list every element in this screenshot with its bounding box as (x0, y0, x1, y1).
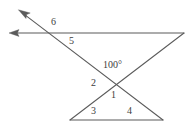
angle-label-1: 1 (111, 90, 116, 100)
angle-measure-label: 100° (103, 60, 122, 70)
angle-label-3: 3 (91, 106, 96, 116)
angle-label-4: 4 (127, 106, 132, 116)
horizontal-ray-arrowhead-icon (9, 30, 19, 37)
angle-label-2: 2 (91, 78, 96, 88)
angle-label-5: 5 (69, 36, 74, 46)
angle-label-6: 6 (51, 17, 56, 27)
geometry-figure: 6 5 100° 2 1 3 4 (0, 0, 190, 124)
falling-transversal-ray (22, 13, 163, 120)
